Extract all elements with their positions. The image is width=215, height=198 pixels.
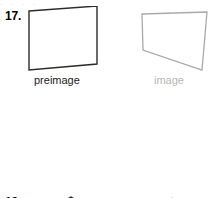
quadrilateral-17-image-shape [142,12,207,70]
caption-17-image: image [154,74,184,87]
problem-number-17: 17. [5,9,21,23]
figure-17-image [134,6,215,76]
figure-17-preimage [25,6,107,76]
worksheet-page: · · · · 17. preimage image 18. preimage [0,0,215,198]
caption-17-preimage: preimage [34,74,80,87]
problem-number-18: 18. [5,195,21,198]
quadrilateral-17-preimage-shape [29,6,97,70]
figure-18-image [134,192,215,198]
pentagon-18-preimage-shape [33,197,107,198]
figure-18-preimage [25,192,115,198]
